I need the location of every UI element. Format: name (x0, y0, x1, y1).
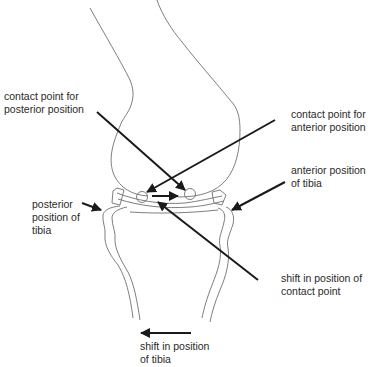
label-line: contact point for (291, 108, 366, 121)
label-contact-anterior: contact point for anterior position (291, 108, 366, 134)
label-line: posterior position (4, 103, 84, 116)
pointer-anterior-tibia (232, 182, 285, 210)
label-line: position of (32, 211, 80, 224)
label-line: of tibia (140, 353, 209, 366)
label-line: anterior position (291, 121, 366, 134)
pointer-shift-contact (152, 196, 258, 280)
label-shift-contact: shift in position of contact point (281, 272, 362, 298)
pointer-posterior-tibia (82, 203, 101, 210)
label-contact-posterior: contact point for posterior position (4, 90, 84, 116)
label-line: tibia (32, 224, 80, 237)
contact-point-anterior (185, 189, 196, 200)
label-line: contact point for (4, 90, 84, 103)
label-shift-tibia: shift in position of tibia (140, 340, 209, 366)
label-line: of tibia (291, 177, 366, 190)
label-line: posterior (32, 198, 80, 211)
label-line: anterior position (291, 164, 366, 177)
femur-outline (90, 0, 240, 197)
label-line: contact point (281, 285, 362, 298)
label-anterior-tibia: anterior position of tibia (291, 164, 366, 190)
label-posterior-tibia: posterior position of tibia (32, 198, 80, 237)
pointer-contact-anterior (147, 120, 275, 192)
label-line: shift in position of (281, 272, 362, 285)
label-line: shift in position (140, 340, 209, 353)
tibia-outline (103, 206, 234, 322)
